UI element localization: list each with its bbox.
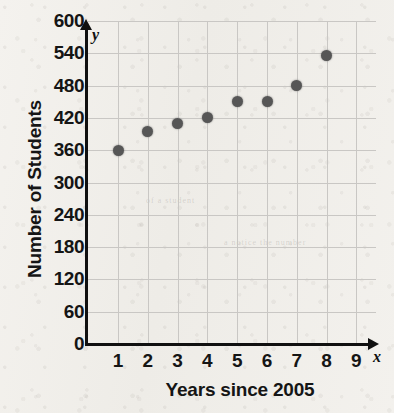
gridline-v	[178, 21, 179, 344]
x-tick-label: 8	[315, 350, 339, 372]
gridline-v	[356, 21, 357, 344]
x-tick-label: 7	[285, 350, 309, 372]
y-tick-label: 180	[2, 236, 84, 258]
data-point	[142, 126, 153, 137]
y-axis-arrowhead-icon	[80, 19, 92, 30]
data-point	[202, 112, 213, 123]
y-axis-line	[85, 28, 88, 346]
gridline-h	[88, 215, 376, 216]
gridline-h	[88, 118, 376, 119]
x-tick-label: 2	[136, 350, 160, 372]
scatter-plot-figure: Number of Students Years since 2005 0601…	[0, 0, 394, 413]
gridline-v	[327, 21, 328, 344]
gridline-v	[207, 21, 208, 344]
data-point	[113, 145, 124, 156]
y-tick-label: 60	[2, 301, 84, 323]
gridline-v	[148, 21, 149, 344]
data-point	[262, 96, 273, 107]
x-variable-label: x	[373, 348, 381, 366]
data-point	[172, 118, 183, 129]
x-tick-label: 1	[106, 350, 130, 372]
x-tick-label: 4	[195, 350, 219, 372]
y-tick-label: 480	[2, 75, 84, 97]
gridline-v	[118, 21, 119, 344]
y-variable-label: y	[92, 26, 99, 44]
gridline-h	[88, 86, 376, 87]
gridline-h	[88, 150, 376, 151]
data-point	[321, 50, 332, 61]
y-tick-label: 360	[2, 139, 84, 161]
y-tick-label: 300	[2, 172, 84, 194]
plot-area	[88, 21, 376, 344]
gridline-h	[88, 279, 376, 280]
y-tick-label: 240	[2, 204, 84, 226]
gridline-h	[88, 53, 376, 54]
gridline-v	[267, 21, 268, 344]
gridline-h	[88, 247, 376, 248]
y-axis-tick-labels: 060120180240300360420480540600	[0, 0, 84, 413]
x-tick-label: 5	[225, 350, 249, 372]
x-tick-label: 6	[255, 350, 279, 372]
x-axis-title: Years since 2005	[95, 379, 385, 401]
y-tick-label: 540	[2, 42, 84, 64]
x-tick-label: 3	[166, 350, 190, 372]
y-tick-label: 420	[2, 107, 84, 129]
data-point	[291, 80, 302, 91]
y-tick-label: 600	[2, 10, 84, 32]
gridline-v	[297, 21, 298, 344]
gridline-v	[237, 21, 238, 344]
data-point	[232, 96, 243, 107]
y-tick-label: 0	[2, 333, 84, 355]
x-tick-label: 9	[344, 350, 368, 372]
x-axis-line	[86, 343, 371, 346]
gridline-h	[88, 21, 376, 22]
gridline-h	[88, 183, 376, 184]
gridline-h	[88, 312, 376, 313]
y-tick-label: 120	[2, 268, 84, 290]
